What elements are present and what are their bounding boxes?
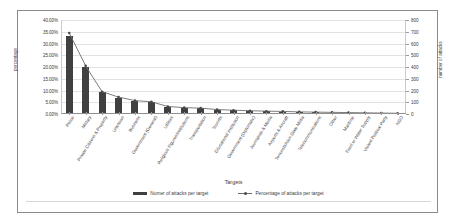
x-axis-title: Targets (61, 179, 406, 185)
chart-frame: percentage 40.00%35.00%30.00%25.00%20.00… (17, 10, 438, 213)
y-axis-right-tick-label: 700 (411, 29, 419, 34)
plot-area (61, 20, 406, 114)
y-axis-right: number of attacks 8007006005004003002001… (406, 11, 446, 115)
y-axis-right-tick-mark (406, 55, 409, 56)
line-swatch-icon (238, 192, 252, 195)
y-axis-right-tick-mark (406, 114, 409, 115)
x-axis-tick-mark (266, 112, 267, 115)
y-axis-right-tick-label: 0 (411, 112, 414, 117)
x-axis-tick-label: Other (328, 115, 338, 127)
x-axis-tick-mark (201, 112, 202, 115)
plot-border (61, 20, 406, 114)
x-axis-tick-mark (316, 112, 317, 115)
x-axis-tick-label: NGO (395, 115, 405, 126)
y-axis-left-tick-label: 10.00% (43, 88, 58, 93)
legend-item-line[interactable]: Percentage of attacks per target (238, 191, 323, 196)
y-axis-right-tick-mark (406, 102, 409, 103)
y-axis-right-tick-mark (406, 20, 409, 21)
legend-divider (26, 201, 431, 202)
y-axis-right-title: number of attacks (438, 41, 443, 78)
x-axis-tick-label: Private Citizens & Property (76, 115, 108, 162)
y-axis-right-tick-mark (406, 32, 409, 33)
x-axis-tick-label: Religious Figures/Institutions (157, 115, 191, 165)
x-axis-tick-label: Business (128, 115, 142, 133)
x-axis-tick-mark (86, 112, 87, 115)
y-axis-right-tick-label: 100 (411, 100, 419, 105)
y-axis-left-tick-label: 5.00% (45, 100, 58, 105)
x-axis-tick-mark (381, 112, 382, 115)
y-axis-right-tick-mark (406, 91, 409, 92)
x-axis-categories: PoliceMilitaryPrivate Citizens & Propert… (61, 115, 406, 177)
x-axis-tick-label: Terrorists/Non-State Militia (274, 115, 305, 161)
y-axis-left-tick-label: 15.00% (43, 76, 58, 81)
y-axis-right-tick-mark (406, 67, 409, 68)
x-axis-tick-mark (349, 112, 350, 115)
x-axis-tick-label: Unknown (111, 115, 125, 133)
x-axis-tick-mark (234, 112, 235, 115)
y-axis-left-tick-label: 20.00% (43, 65, 58, 70)
x-axis-tick-label: Transportation (188, 115, 207, 142)
y-axis-right-tick-label: 200 (411, 88, 419, 93)
x-axis-tick-label: Police (65, 115, 76, 128)
y-axis-right-tick-label: 500 (411, 53, 419, 58)
y-axis-right-tick-label: 400 (411, 65, 419, 70)
x-axis-tick-label: Military (80, 115, 92, 129)
y-axis-right-tick-mark (406, 44, 409, 45)
y-axis-left-tick-label: 40.00% (43, 18, 58, 23)
y-axis-right-tick-label: 800 (411, 18, 419, 23)
x-axis-tick-label: Utilities (163, 115, 175, 130)
y-axis-left-tick-label: 0.00% (45, 112, 58, 117)
x-axis-tick-label: Tourists (211, 115, 223, 130)
y-axis-left-tick-label: 30.00% (43, 41, 58, 46)
y-axis-left: percentage 40.00%35.00%30.00%25.00%20.00… (18, 11, 61, 115)
x-axis-tick-mark (119, 112, 120, 115)
legend-label-line: Percentage of attacks per target (255, 191, 323, 196)
bar-swatch-icon (133, 192, 147, 195)
y-axis-left-tick-label: 25.00% (43, 53, 58, 58)
chart-legend: Numer of attacks per target Percentage o… (18, 191, 439, 196)
x-axis-tick-mark (168, 112, 169, 115)
y-axis-left-title: percentage (13, 48, 18, 71)
x-axis-tick-mark (283, 112, 284, 115)
y-axis-left-tick-label: 35.00% (43, 29, 58, 34)
x-axis-tick-label: Maritime (342, 115, 355, 132)
legend-item-bars[interactable]: Numer of attacks per target (133, 191, 208, 196)
y-axis-right-tick-label: 300 (411, 76, 419, 81)
x-axis-tick-mark (151, 112, 152, 115)
legend-label-bars: Numer of attacks per target (150, 191, 208, 196)
y-axis-right-tick-mark (406, 79, 409, 80)
y-axis-right-tick-label: 600 (411, 41, 419, 46)
x-axis-tick-mark (398, 112, 399, 115)
